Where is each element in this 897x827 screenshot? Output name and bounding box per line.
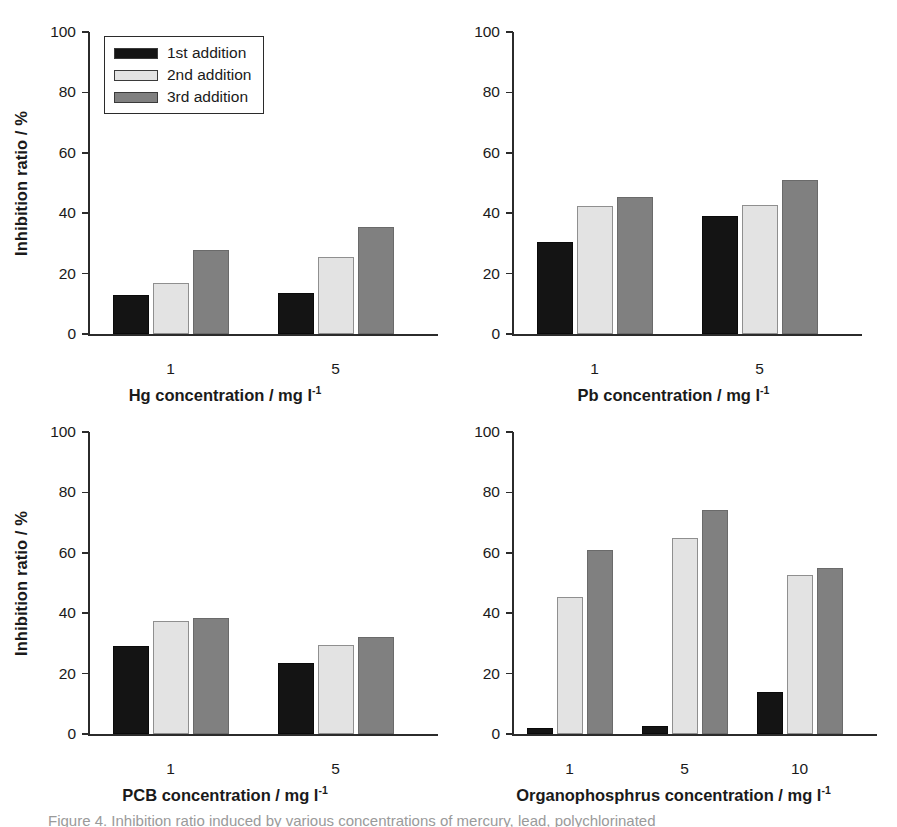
plot-area-pb: 02040608010015Pb concentration / mg l-1	[450, 0, 897, 412]
x-tick-label: 1	[565, 760, 574, 778]
y-tick-mark	[506, 31, 513, 33]
bar-op-1-s2	[557, 597, 583, 734]
y-tick-mark	[82, 492, 89, 494]
x-tick-label: 1	[166, 360, 175, 378]
x-axis-line	[512, 734, 877, 736]
bar-op-5-s2	[672, 538, 698, 734]
bar-hg-1-s1	[113, 295, 149, 334]
y-tick-label: 40	[30, 204, 76, 222]
legend-item-3rd[interactable]: 3rd addition	[114, 88, 251, 106]
y-tick-label: 80	[454, 483, 500, 501]
y-tick-label: 100	[30, 423, 76, 441]
legend-label: 3rd addition	[167, 88, 248, 106]
bar-hg-5-s2	[318, 257, 354, 334]
bar-pb-5-s1	[702, 216, 738, 334]
bar-hg-5-s3	[358, 227, 394, 334]
y-tick-label: 0	[454, 325, 500, 343]
y-tick-label: 80	[454, 83, 500, 101]
y-tick-mark	[82, 152, 89, 154]
chart-legend: 1st addition2nd addition3rd addition	[104, 36, 264, 114]
bar-op-5-s1	[642, 726, 668, 734]
bar-op-10-s3	[817, 568, 843, 734]
y-tick-label: 100	[454, 23, 500, 41]
bar-pcb-1-s1	[113, 646, 149, 734]
y-tick-label: 40	[454, 604, 500, 622]
y-tick-label: 20	[30, 665, 76, 683]
bar-op-10-s2	[787, 575, 813, 734]
bar-pcb-1-s3	[193, 618, 229, 734]
figure-panel-grid: Inhibition ratio / %02040608010015Hg con…	[0, 0, 897, 827]
y-tick-label: 60	[454, 144, 500, 162]
chart-panel-pb: 02040608010015Pb concentration / mg l-1	[450, 0, 897, 412]
y-tick-mark	[82, 673, 89, 675]
bar-pb-5-s3	[782, 180, 818, 334]
y-tick-mark	[82, 212, 89, 214]
figure-caption: Figure 4. Inhibition ratio induced by va…	[0, 812, 897, 827]
x-axis-line	[512, 334, 862, 336]
y-tick-label: 60	[454, 544, 500, 562]
bar-op-5-s3	[702, 510, 728, 734]
bar-pb-1-s1	[537, 242, 573, 334]
y-tick-mark	[82, 733, 89, 735]
x-axis-title: Organophosphrus concentration / mg l-1	[450, 784, 897, 805]
y-tick-mark	[82, 31, 89, 33]
legend-swatch-icon-3rd	[114, 92, 158, 103]
y-axis-line	[88, 432, 90, 735]
y-tick-mark	[506, 333, 513, 335]
bar-pb-1-s2	[577, 206, 613, 334]
y-tick-label: 80	[30, 83, 76, 101]
y-tick-mark	[82, 612, 89, 614]
bar-pb-1-s3	[617, 197, 653, 334]
y-tick-mark	[506, 212, 513, 214]
chart-panel-organophosphorus: 0204060801001510Organophosphrus concentr…	[450, 412, 897, 812]
x-axis-title-superscript: -1	[312, 384, 321, 396]
y-tick-label: 0	[454, 725, 500, 743]
y-tick-label: 0	[30, 725, 76, 743]
y-tick-label: 100	[30, 23, 76, 41]
y-tick-mark	[506, 273, 513, 275]
y-tick-mark	[82, 552, 89, 554]
y-tick-mark	[506, 92, 513, 94]
x-tick-label: 10	[791, 760, 808, 778]
bar-op-1-s1	[527, 728, 553, 734]
y-tick-mark	[506, 552, 513, 554]
y-tick-mark	[506, 673, 513, 675]
x-axis-title: Hg concentration / mg l-1	[0, 384, 450, 405]
chart-panel-hg: Inhibition ratio / %02040608010015Hg con…	[0, 0, 450, 412]
x-axis-line	[88, 334, 438, 336]
legend-swatch-icon-2nd	[114, 70, 158, 81]
y-axis-line	[88, 32, 90, 335]
bar-hg-1-s2	[153, 283, 189, 334]
y-tick-mark	[506, 492, 513, 494]
x-axis-title-superscript: -1	[318, 784, 327, 796]
bar-pcb-5-s1	[278, 663, 314, 734]
plot-area-pcb: Inhibition ratio / %02040608010015PCB co…	[0, 412, 450, 812]
legend-label: 1st addition	[167, 44, 246, 62]
x-axis-title: Pb concentration / mg l-1	[450, 384, 897, 405]
bar-pb-5-s2	[742, 205, 778, 334]
bar-pcb-5-s2	[318, 645, 354, 734]
x-tick-label: 5	[331, 760, 340, 778]
legend-label: 2nd addition	[167, 66, 251, 84]
y-tick-mark	[82, 431, 89, 433]
y-tick-label: 40	[454, 204, 500, 222]
bar-pcb-1-s2	[153, 621, 189, 734]
x-axis-title-text: Organophosphrus concentration / mg l	[516, 786, 821, 804]
y-tick-mark	[82, 92, 89, 94]
bar-op-1-s3	[587, 550, 613, 734]
bar-hg-5-s1	[278, 293, 314, 334]
x-tick-label: 5	[755, 360, 764, 378]
plot-area-op: 0204060801001510Organophosphrus concentr…	[450, 412, 897, 812]
bar-pcb-5-s3	[358, 637, 394, 734]
y-tick-mark	[506, 431, 513, 433]
legend-item-1st[interactable]: 1st addition	[114, 44, 251, 62]
y-tick-mark	[506, 612, 513, 614]
y-tick-label: 20	[454, 265, 500, 283]
y-tick-label: 0	[30, 325, 76, 343]
x-tick-label: 5	[331, 360, 340, 378]
legend-item-2nd[interactable]: 2nd addition	[114, 66, 251, 84]
x-axis-title-text: Hg concentration / mg l	[129, 386, 312, 404]
y-axis-title-text: Inhibition ratio / %	[12, 111, 31, 256]
y-axis-title: Inhibition ratio / %	[10, 32, 32, 334]
y-tick-label: 80	[30, 483, 76, 501]
